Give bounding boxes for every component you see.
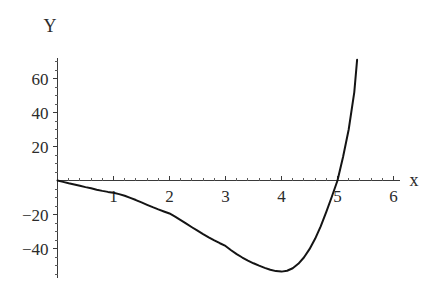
x-tick-label: 4 xyxy=(277,187,286,206)
x-tick-label: 6 xyxy=(389,187,398,206)
y-tick-label: 20 xyxy=(32,138,49,157)
y-tick-label: −40 xyxy=(22,240,49,259)
y-tick-label: 40 xyxy=(32,104,49,123)
x-axis-tick-labels: 123456 xyxy=(109,187,398,206)
y-axis-label: Y xyxy=(44,16,57,36)
x-tick-label: 3 xyxy=(221,187,230,206)
chart-canvas: 123456 604020−20−40 Y x xyxy=(0,0,438,285)
y-tick-label: −20 xyxy=(22,206,49,225)
x-axis-label: x xyxy=(410,170,419,190)
x-tick-label: 2 xyxy=(165,187,174,206)
y-tick-label: 60 xyxy=(32,70,49,89)
y-axis-tick-labels: 604020−20−40 xyxy=(22,70,49,259)
axis-group xyxy=(57,58,400,278)
data-curve xyxy=(58,60,358,272)
x-tick-label: 1 xyxy=(109,187,118,206)
plot-figure: 123456 604020−20−40 Y x xyxy=(0,0,438,285)
